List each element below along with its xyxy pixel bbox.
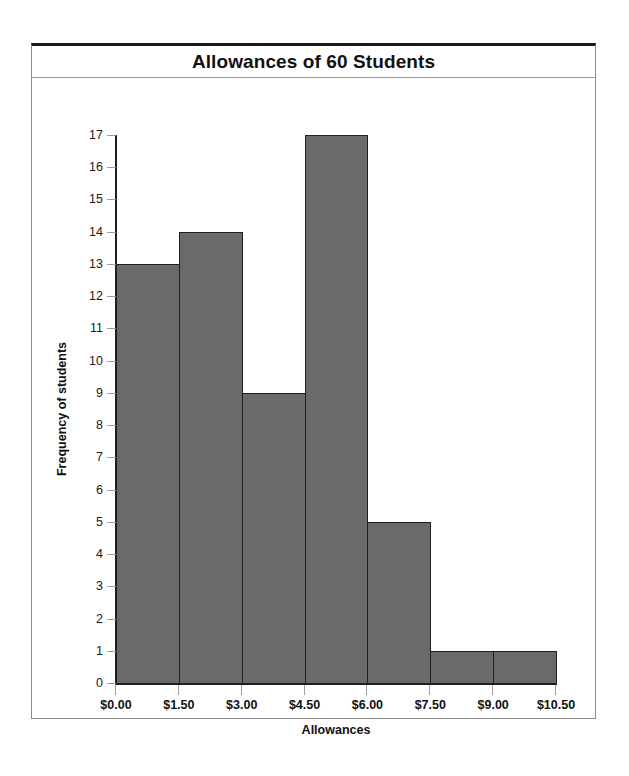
histogram-bar — [430, 651, 494, 683]
chart-title-bar: Allowances of 60 Students — [32, 46, 595, 78]
x-tick-mark — [429, 685, 430, 695]
figure-card: Allowances of 60 Students Frequency of s… — [31, 43, 596, 719]
y-tick-mark — [107, 393, 116, 394]
y-tick-label: 2 — [96, 612, 103, 626]
x-axis-line — [115, 683, 557, 685]
y-tick-mark — [107, 135, 116, 136]
y-tick-label: 9 — [96, 386, 103, 400]
axes-area: 01234567891011121314151617 $0.00$1.50$3.… — [116, 135, 556, 683]
x-tick-label: $0.00 — [100, 698, 131, 712]
y-tick-label: 10 — [89, 354, 103, 368]
y-tick-mark — [107, 522, 116, 523]
x-tick-label: $10.50 — [537, 698, 575, 712]
y-tick-mark — [107, 296, 116, 297]
y-tick-label: 5 — [96, 515, 103, 529]
y-tick-mark — [107, 554, 116, 555]
y-tick-label: 6 — [96, 483, 103, 497]
y-tick-label: 12 — [89, 289, 103, 303]
y-tick-mark — [107, 199, 116, 200]
histogram-bar — [179, 232, 243, 683]
x-tick-mark — [304, 685, 305, 695]
y-tick-label: 0 — [96, 676, 103, 690]
y-tick-label: 16 — [89, 160, 103, 174]
x-tick-mark — [241, 685, 242, 695]
y-tick-mark — [107, 328, 116, 329]
y-tick-label: 13 — [89, 257, 103, 271]
x-tick-mark — [492, 685, 493, 695]
histogram-bar — [493, 651, 557, 683]
y-axis-title: Frequency of students — [54, 135, 70, 683]
x-tick-mark — [555, 685, 556, 695]
x-tick-label: $3.00 — [226, 698, 257, 712]
y-tick-label: 14 — [89, 225, 103, 239]
histogram-bar — [367, 522, 431, 683]
histogram-bar — [116, 264, 180, 683]
x-tick-label: $4.50 — [289, 698, 320, 712]
x-tick-label: $9.00 — [478, 698, 509, 712]
histogram-bar — [305, 135, 369, 683]
y-tick-label: 4 — [96, 547, 103, 561]
y-tick-mark — [107, 619, 116, 620]
y-axis-title-label: Frequency of students — [55, 342, 69, 476]
y-tick-mark — [107, 683, 116, 684]
y-tick-mark — [107, 264, 116, 265]
y-tick-mark — [107, 425, 116, 426]
y-tick-label: 17 — [89, 128, 103, 142]
x-tick-label: $6.00 — [352, 698, 383, 712]
x-tick-mark — [366, 685, 367, 695]
y-tick-label: 7 — [96, 450, 103, 464]
y-tick-label: 15 — [89, 192, 103, 206]
y-tick-label: 8 — [96, 418, 103, 432]
x-tick-label: $1.50 — [163, 698, 194, 712]
page-title: Allowances of 60 Students — [192, 51, 435, 73]
y-tick-mark — [107, 232, 116, 233]
y-tick-mark — [107, 361, 116, 362]
y-tick-label: 11 — [90, 321, 103, 335]
x-tick-mark — [178, 685, 179, 695]
x-axis-title: Allowances — [116, 723, 556, 737]
y-tick-mark — [107, 586, 116, 587]
plot-region: Frequency of students 012345678910111213… — [32, 78, 595, 718]
y-tick-mark — [107, 457, 116, 458]
histogram-bars — [116, 135, 556, 683]
histogram-bar — [242, 393, 306, 683]
x-tick-label: $7.50 — [415, 698, 446, 712]
x-tick-mark — [115, 685, 116, 695]
y-tick-mark — [107, 167, 116, 168]
y-tick-label: 1 — [96, 644, 103, 658]
y-tick-label: 3 — [96, 579, 103, 593]
y-tick-mark — [107, 490, 116, 491]
y-tick-mark — [107, 651, 116, 652]
